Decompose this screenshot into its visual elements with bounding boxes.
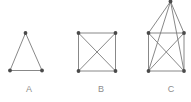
graph-edge — [171, 2, 185, 34]
graph-edge — [10, 33, 26, 71]
graph-figure: ABC — [0, 0, 191, 102]
graph-b — [77, 31, 118, 73]
graph-vertex — [147, 69, 151, 73]
graph-vertex — [40, 69, 44, 73]
graph-label-a: A — [19, 84, 39, 94]
graph-vertex — [114, 69, 118, 73]
graph-vertex — [77, 69, 81, 73]
graph-edge — [26, 33, 43, 71]
graph-c — [147, 0, 186, 73]
graph-vertex — [77, 31, 81, 35]
graph-label-b: B — [91, 84, 111, 94]
graph-a — [8, 31, 44, 72]
graph-vertex — [24, 31, 28, 35]
graph-vertex — [182, 69, 186, 73]
graph-edge — [171, 2, 185, 72]
graph-vertex — [114, 31, 118, 35]
graph-vertex — [8, 69, 12, 73]
graph-vertex — [182, 31, 186, 35]
graph-vertex — [147, 31, 151, 35]
graph-label-c: C — [161, 84, 181, 94]
graph-edge — [149, 2, 171, 34]
